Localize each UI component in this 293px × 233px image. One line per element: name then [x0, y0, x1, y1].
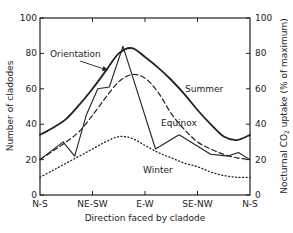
- y-axis-right-title: Nocturnal CO2 uptake (% of maximum): [279, 18, 290, 194]
- y-axis-left-title: Number of cladodes: [5, 60, 15, 151]
- label-summer: Summer: [185, 84, 223, 94]
- label-equinox: Equinox: [161, 118, 198, 128]
- y-tick-label-left: 20: [26, 155, 38, 165]
- x-axis-title: Direction faced by cladode: [85, 213, 206, 223]
- orientation-arrow: [80, 61, 107, 70]
- y-tick-label-right: 40: [255, 119, 267, 129]
- series-summer: [40, 48, 250, 140]
- x-tick-label: N-S: [242, 199, 258, 209]
- y-tick-label-left: 100: [20, 13, 37, 23]
- y-tick-label-left: 60: [26, 84, 38, 94]
- chart: 020406080100 020406080100 N-SNE-SWE-WSE-…: [0, 0, 293, 233]
- x-axis: N-SNE-SWE-WSE-NWN-S: [32, 18, 258, 209]
- y-tick-label-right: 100: [255, 13, 272, 23]
- x-tick-label: N-S: [32, 199, 48, 209]
- x-tick-label: E-W: [136, 199, 154, 209]
- series-layer: [40, 46, 250, 177]
- y-tick-label-right: 80: [255, 48, 267, 58]
- label-winter: Winter: [143, 165, 173, 175]
- x-tick-label: SE-NW: [182, 199, 212, 209]
- label-orientation: Orientation: [50, 49, 101, 59]
- y-tick-label-left: 40: [26, 119, 38, 129]
- y-tick-label-right: 20: [255, 155, 267, 165]
- x-tick-label: NE-SW: [77, 199, 107, 209]
- y-tick-label-left: 80: [26, 48, 38, 58]
- series-orientation: [40, 46, 250, 159]
- y-tick-label-right: 60: [255, 84, 267, 94]
